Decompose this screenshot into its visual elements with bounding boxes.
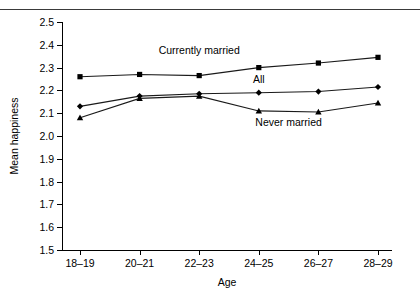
- clipped-heading-text: [200, 0, 420, 5]
- data-point-marker: [375, 84, 381, 90]
- data-point-marker: [316, 60, 321, 65]
- y-tick-mark: [57, 250, 62, 251]
- x-tick-label: 18–19: [65, 258, 94, 269]
- data-point-marker: [315, 88, 321, 94]
- figure-container: 1.51.61.71.81.92.02.12.22.32.42.5 18–192…: [0, 0, 420, 298]
- x-tick-mark: [378, 250, 379, 255]
- y-tick-label: 2.0: [39, 131, 54, 142]
- y-tick-label: 2.1: [39, 108, 54, 119]
- data-point-marker: [77, 74, 82, 79]
- data-point-marker: [256, 65, 261, 70]
- y-tick-label: 2.4: [39, 40, 54, 51]
- series-label: All: [253, 74, 265, 85]
- y-tick-label: 1.8: [39, 176, 54, 187]
- x-axis-line: [62, 250, 392, 251]
- y-tick-label: 1.5: [39, 245, 54, 256]
- series-label: Currently married: [159, 45, 240, 56]
- x-tick-label: 20–21: [125, 258, 154, 269]
- top-rule-divider: [0, 9, 420, 10]
- x-tick-label: 24–25: [244, 258, 273, 269]
- x-tick-mark: [259, 250, 260, 255]
- series-line: [80, 57, 378, 76]
- x-tick-label: 28–29: [363, 258, 392, 269]
- y-tick-label: 2.5: [39, 17, 54, 28]
- x-tick-mark: [199, 250, 200, 255]
- series-layer: [62, 22, 392, 250]
- data-point-marker: [375, 55, 380, 60]
- series-line: [80, 96, 378, 118]
- x-tick-label: 22–23: [185, 258, 214, 269]
- y-tick-label: 2.2: [39, 85, 54, 96]
- data-point-marker: [375, 100, 381, 106]
- y-axis-title: Mean happiness: [8, 97, 20, 174]
- data-point-marker: [256, 90, 262, 96]
- plot-area: 1.51.61.71.81.92.02.12.22.32.42.5 18–192…: [62, 22, 392, 250]
- x-tick-label: 26–27: [304, 258, 333, 269]
- y-tick-label: 1.9: [39, 154, 54, 165]
- data-point-marker: [137, 72, 142, 77]
- x-tick-mark: [80, 250, 81, 255]
- series-label: Never married: [255, 117, 322, 128]
- x-tick-mark: [140, 250, 141, 255]
- data-point-marker: [77, 103, 83, 109]
- y-tick-label: 1.7: [39, 199, 54, 210]
- y-tick-label: 2.3: [39, 62, 54, 73]
- x-axis-title: Age: [218, 276, 237, 288]
- data-point-marker: [197, 73, 202, 78]
- x-tick-mark: [318, 250, 319, 255]
- y-tick-label: 1.6: [39, 222, 54, 233]
